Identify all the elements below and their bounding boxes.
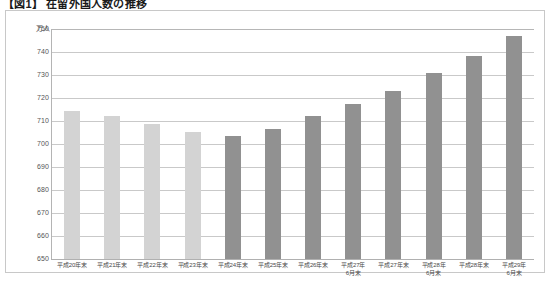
bar xyxy=(64,111,80,259)
bar xyxy=(466,56,482,259)
y-tick-label-690: 690 xyxy=(9,163,49,170)
bar xyxy=(426,73,442,259)
bar xyxy=(506,36,522,259)
bar-cell xyxy=(414,29,454,259)
x-axis-label: 平成27年末 xyxy=(373,261,413,277)
y-tick-label-660: 660 xyxy=(9,232,49,239)
bar-cell xyxy=(293,29,333,259)
bar-cell xyxy=(52,29,92,259)
x-axis-label: 平成25年末 xyxy=(253,261,293,277)
bar xyxy=(144,124,160,259)
y-tick-label-700: 700 xyxy=(9,140,49,147)
bar xyxy=(225,136,241,259)
x-axis-label: 平成24年末 xyxy=(213,261,253,277)
x-axis-label: 平成29年6月末 xyxy=(494,261,534,277)
bar-cell xyxy=(213,29,253,259)
y-tick-label-710: 710 xyxy=(9,117,49,124)
x-axis-line xyxy=(51,259,534,260)
y-tick-label-720: 720 xyxy=(9,94,49,101)
page-title: 【図1】 在留外国人数の推移 xyxy=(3,0,147,9)
x-axis-label: 平成28年末 xyxy=(454,261,494,277)
bar-cell xyxy=(132,29,172,259)
bar-cell xyxy=(253,29,293,259)
x-axis-label: 平成23年末 xyxy=(173,261,213,277)
bar xyxy=(385,91,401,259)
bar-cell xyxy=(173,29,213,259)
y-axis-ticks: 750740730720710700690680670660650 xyxy=(6,29,49,260)
y-tick-label-750: 750 xyxy=(9,25,49,32)
bar-cell xyxy=(454,29,494,259)
bar xyxy=(104,116,120,259)
y-tick-label-680: 680 xyxy=(9,186,49,193)
bar xyxy=(185,132,201,259)
chart-page: 【図1】 在留外国人数の推移 万人 7507407307207107006906… xyxy=(0,0,551,283)
chart-frame: 万人 750740730720710700690680670660650 平成2… xyxy=(5,10,545,273)
bar-cell xyxy=(494,29,534,259)
x-axis-label: 平成21年末 xyxy=(92,261,132,277)
x-axis-label: 平成22年末 xyxy=(132,261,172,277)
chart-title-strip: 【図1】 在留外国人数の推移 xyxy=(0,0,551,9)
bar-cell xyxy=(333,29,373,259)
bar-cell xyxy=(92,29,132,259)
y-tick-label-670: 670 xyxy=(9,209,49,216)
x-axis-labels: 平成20年末平成21年末平成22年末平成23年末平成24年末平成25年末平成26… xyxy=(52,261,534,277)
bar xyxy=(265,129,281,259)
bar-cell xyxy=(373,29,413,259)
x-axis-label: 平成20年末 xyxy=(52,261,92,277)
bar xyxy=(305,116,321,259)
y-tick-label-650: 650 xyxy=(9,255,49,262)
y-tick-label-730: 730 xyxy=(9,71,49,78)
bar xyxy=(345,104,361,259)
x-axis-label: 平成28年6月末 xyxy=(414,261,454,277)
y-tick-label-740: 740 xyxy=(9,48,49,55)
x-axis-label: 平成27年6月末 xyxy=(333,261,373,277)
x-axis-label: 平成26年末 xyxy=(293,261,333,277)
bar-series xyxy=(52,29,534,259)
